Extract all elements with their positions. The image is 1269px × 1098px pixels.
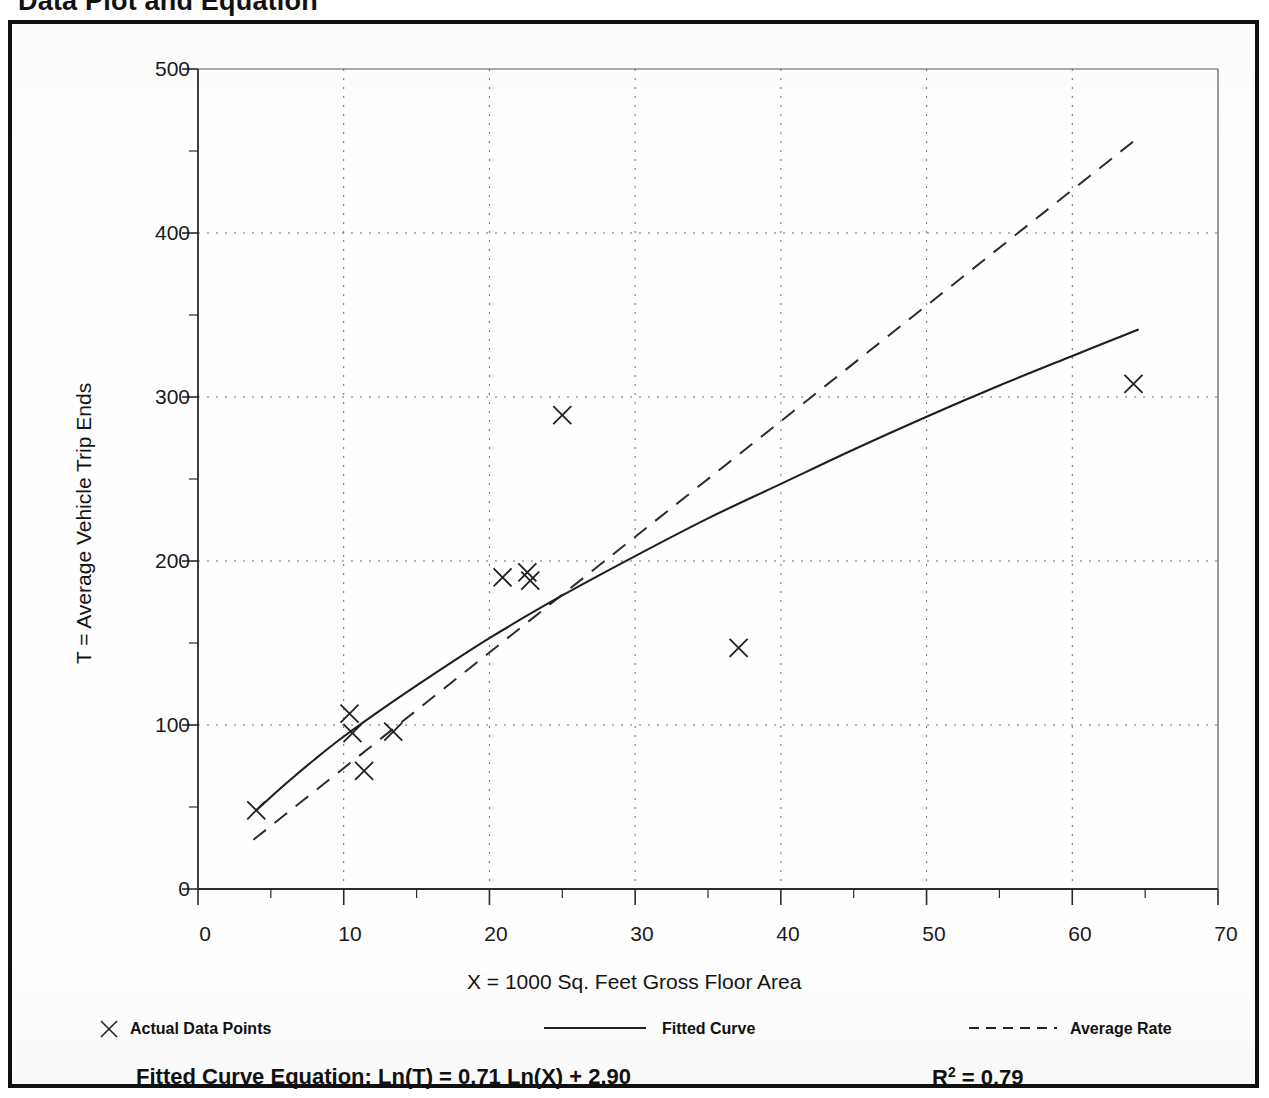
data-point-marker: [355, 762, 373, 780]
y-axis-title: T = Average Vehicle Trip Ends: [72, 383, 96, 664]
x-tick-label: 0: [187, 922, 223, 946]
fitted-curve-line: [256, 330, 1138, 811]
legend-label-actual-data-points: Actual Data Points: [130, 1020, 271, 1038]
legend-label-fitted-curve: Fitted Curve: [662, 1020, 755, 1038]
x-tick-label: 40: [770, 922, 806, 946]
data-point-marker: [247, 801, 265, 819]
chart-legend: Actual Data Points Fitted Curve Average …: [12, 1012, 1263, 1046]
data-point-marker: [341, 705, 359, 723]
average-rate-line: [253, 138, 1137, 840]
r-squared-annotation: R2 = 0.79: [932, 1064, 1024, 1091]
data-point-marker: [1124, 375, 1142, 393]
y-tick-label: 200: [130, 549, 190, 573]
y-tick-label: 500: [130, 57, 190, 81]
data-point-marker: [384, 723, 402, 741]
y-tick-label: 300: [130, 385, 190, 409]
fitted-curve-equation: Fitted Curve Equation: Ln(T) = 0.71 Ln(X…: [136, 1064, 631, 1090]
x-tick-label: 50: [916, 922, 952, 946]
x-axis-title: X = 1000 Sq. Feet Gross Floor Area: [467, 970, 801, 994]
data-point-marker: [343, 724, 361, 742]
r-exponent: 2: [948, 1064, 956, 1080]
legend-label-average-rate: Average Rate: [1070, 1020, 1172, 1038]
r-value: = 0.79: [962, 1065, 1024, 1090]
data-point-marker: [730, 639, 748, 657]
x-tick-label: 30: [624, 922, 660, 946]
equation-row: Fitted Curve Equation: Ln(T) = 0.71 Ln(X…: [12, 1064, 1263, 1098]
r-symbol: R: [932, 1065, 948, 1090]
y-tick-label: 400: [130, 221, 190, 245]
y-tick-label: 0: [130, 877, 190, 901]
dashed-line-icon: [967, 1021, 1059, 1035]
solid-line-icon: [542, 1021, 648, 1035]
y-tick-label: 100: [130, 713, 190, 737]
x-marker-icon: [98, 1018, 120, 1040]
data-point-marker: [494, 568, 512, 586]
page-title: Data Plot and Equation: [18, 0, 318, 17]
x-tick-label: 70: [1208, 922, 1244, 946]
x-tick-label: 60: [1062, 922, 1098, 946]
chart-frame: 500 400 300 200 100 0 0 10 20 30 40 50 6…: [8, 20, 1259, 1088]
data-point-marker: [553, 406, 571, 424]
x-tick-label: 20: [478, 922, 514, 946]
x-tick-label: 10: [332, 922, 368, 946]
